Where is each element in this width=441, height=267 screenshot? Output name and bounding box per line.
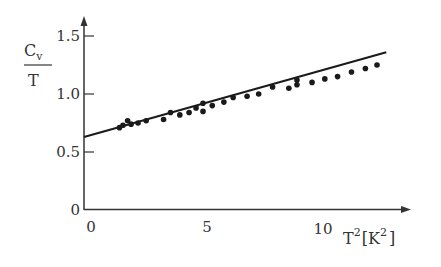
x-tick-label: 10	[313, 220, 332, 238]
y-tick-label: 1.5	[56, 27, 80, 45]
data-point	[200, 109, 206, 115]
data-point	[143, 118, 149, 124]
data-point	[193, 105, 199, 111]
data-point	[286, 85, 292, 91]
y-tick-label: 0.5	[56, 143, 80, 161]
data-point	[135, 120, 141, 126]
data-point	[128, 121, 134, 127]
y-label-numerator: Cv	[24, 41, 43, 63]
data-point	[168, 110, 174, 116]
data-point	[322, 76, 328, 82]
data-point	[270, 84, 276, 90]
data-point	[256, 91, 262, 97]
data-point	[335, 74, 341, 80]
data-point	[120, 123, 126, 129]
y-label-denominator: T	[28, 71, 39, 90]
data-point	[309, 80, 315, 86]
data-point	[209, 103, 215, 109]
x-tick-label: 0	[86, 218, 96, 236]
x-ticks: 0510	[86, 218, 332, 238]
x-axis-label: T2[K2]	[343, 226, 395, 248]
data-point	[230, 95, 236, 101]
data-point	[221, 99, 227, 105]
data-points	[117, 62, 380, 130]
y-tick-label: 0	[70, 201, 80, 219]
chart: 00.51.01.5 0510 Cv T T2[K2]	[0, 0, 441, 267]
axes	[81, 16, 412, 213]
y-tick-label: 1.0	[56, 85, 80, 103]
data-point	[294, 77, 300, 83]
data-point	[177, 112, 183, 118]
x-tick-label: 5	[202, 218, 212, 236]
data-point	[186, 110, 192, 116]
y-axis-arrow-icon	[81, 16, 88, 26]
data-point	[374, 62, 380, 68]
data-point	[244, 94, 250, 100]
y-ticks: 00.51.01.5	[56, 27, 94, 219]
x-label: T2[K2]	[343, 226, 395, 248]
data-point	[363, 66, 369, 72]
y-axis-label: Cv T	[24, 41, 52, 90]
data-point	[349, 69, 355, 75]
data-point	[161, 117, 167, 123]
x-axis-arrow-icon	[401, 206, 411, 213]
data-point	[200, 100, 206, 106]
